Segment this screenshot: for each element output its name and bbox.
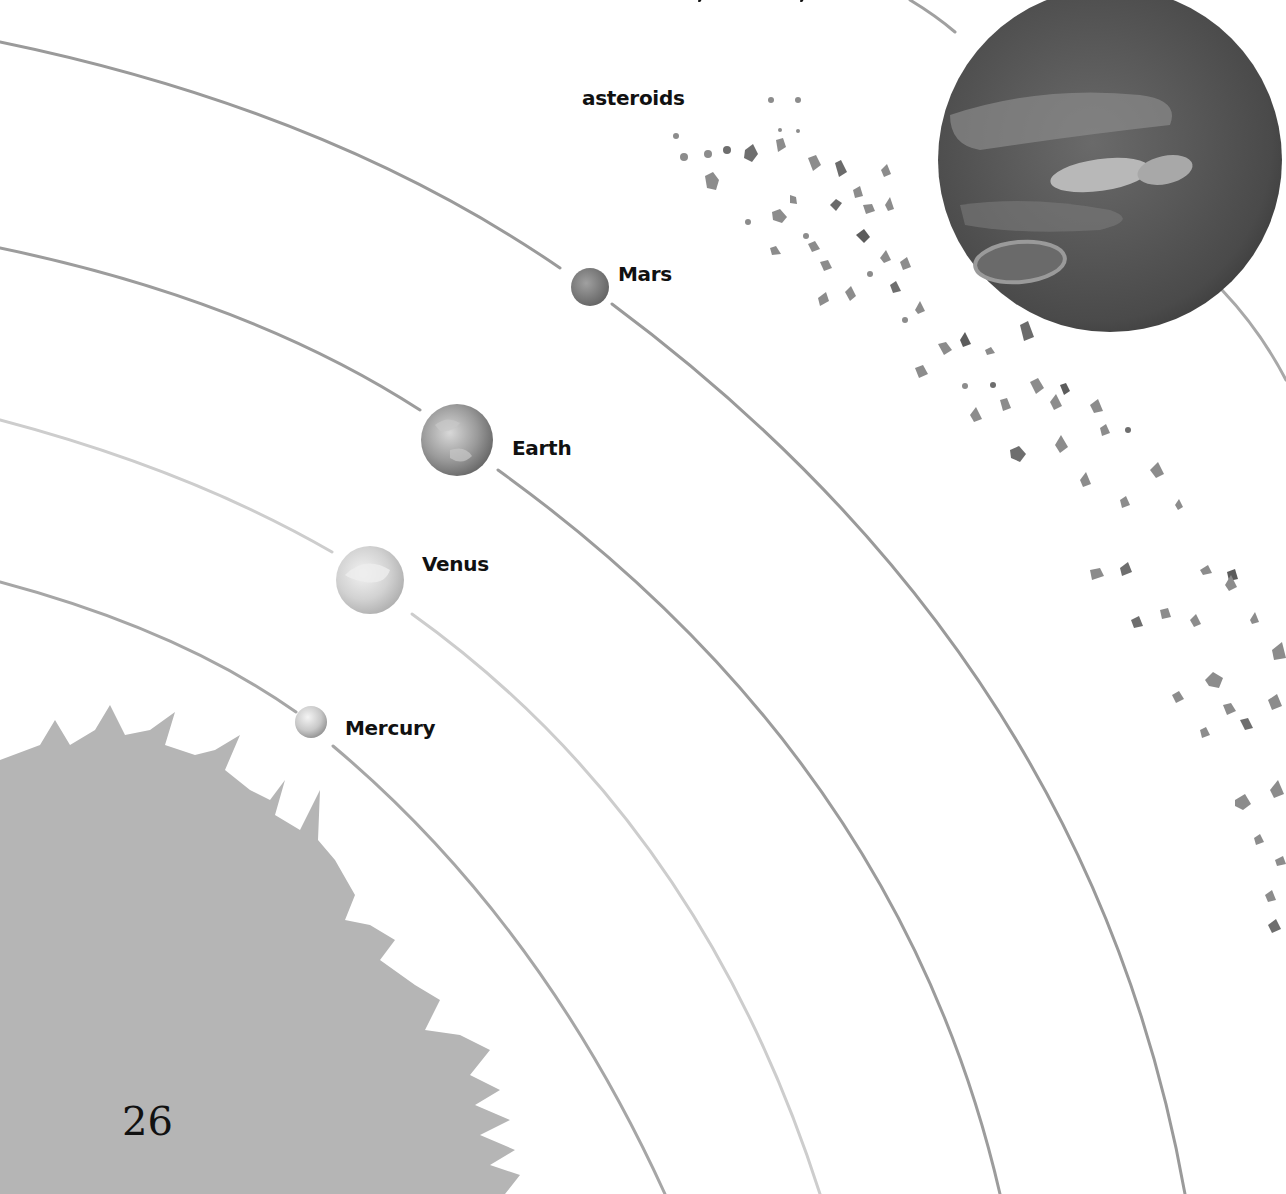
label-venus: Venus — [422, 552, 489, 576]
clipped-heading-fragment — [340, 0, 980, 4]
label-earth: Earth — [512, 436, 571, 460]
orbit-mars-2 — [612, 304, 1185, 1194]
mercury-planet — [295, 706, 327, 738]
earth-planet — [421, 404, 493, 476]
sun-shape — [0, 705, 520, 1194]
orbit-jupiter — [910, 0, 955, 32]
venus-planet — [336, 546, 404, 614]
label-mercury: Mercury — [345, 716, 435, 740]
label-asteroids: asteroids — [582, 86, 685, 110]
page-number: 26 — [122, 1098, 173, 1144]
orbit-venus — [0, 420, 332, 552]
orbit-earth — [0, 248, 420, 410]
jupiter — [938, 0, 1282, 332]
label-mars: Mars — [618, 262, 672, 286]
orbit-mars — [0, 42, 560, 268]
mars-planet — [571, 268, 609, 306]
orbit-mercury — [0, 582, 296, 712]
diagram-artwork — [0, 0, 1286, 1194]
orbit-jupiter-2 — [1222, 290, 1286, 380]
orbit-earth-2 — [498, 470, 1000, 1194]
solar-system-diagram: asteroids Mars Earth Venus Mercury 26 — [0, 0, 1286, 1194]
